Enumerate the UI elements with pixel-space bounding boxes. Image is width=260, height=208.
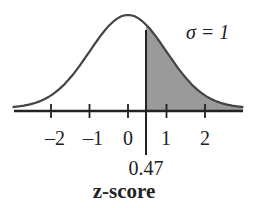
tick-label: 2 <box>200 128 210 148</box>
tick-label: –2 <box>45 128 65 148</box>
normal-distribution-chart: σ = 1 –2 –1 0 1 2 0.47 z-score <box>0 0 260 208</box>
tick-label: –1 <box>83 128 103 148</box>
tick-label: 0 <box>123 128 133 148</box>
marker-label: 0.47 <box>129 158 164 178</box>
sigma-annotation: σ = 1 <box>186 22 229 42</box>
tick-label: 1 <box>161 128 171 148</box>
x-axis-label: z-score <box>93 181 156 202</box>
